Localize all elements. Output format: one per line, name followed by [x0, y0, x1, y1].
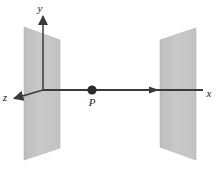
right-charged-plate [160, 28, 196, 160]
x-axis-arrowhead [149, 87, 159, 94]
diagram-canvas: y x z P [0, 0, 222, 175]
x-axis-label: x [206, 87, 212, 99]
point-p-marker [87, 85, 96, 94]
y-axis-label: y [37, 2, 43, 14]
z-axis-label: z [2, 91, 8, 103]
physics-diagram-figure: y x z P [0, 0, 222, 175]
point-p-label: P [88, 96, 96, 108]
